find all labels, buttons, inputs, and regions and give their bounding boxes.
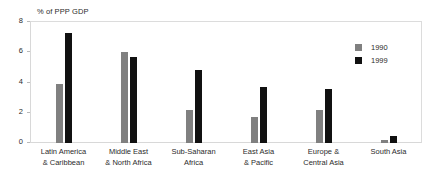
y-axis-tick-label: 2	[19, 107, 23, 116]
y-axis-tick-mark	[27, 51, 30, 52]
bar-group	[31, 22, 96, 143]
bar[interactable]	[390, 136, 397, 143]
y-axis-tick-mark	[27, 112, 30, 113]
y-axis-unit-label: % of PPP GDP	[37, 7, 89, 16]
x-axis-label: South Asia	[346, 147, 432, 158]
y-axis-tick-mark	[27, 21, 30, 22]
bar[interactable]	[195, 70, 202, 143]
legend-item-1990[interactable]: 1990	[355, 42, 388, 53]
bar[interactable]	[251, 117, 258, 143]
bars-layer	[31, 22, 421, 143]
legend-label-1999: 1999	[371, 56, 388, 65]
legend-swatch-icon-1999	[355, 57, 362, 64]
bar[interactable]	[130, 57, 137, 143]
bar[interactable]	[121, 52, 128, 143]
bar-group	[226, 22, 291, 143]
bar-group	[96, 22, 161, 143]
bar-group	[291, 22, 356, 143]
bar-group	[356, 22, 421, 143]
bar-chart: % of PPP GDP 02468 Latin America& Caribb…	[0, 0, 437, 188]
y-axis-tick-label: 8	[19, 16, 23, 25]
bar[interactable]	[65, 33, 72, 143]
legend-label-1990: 1990	[371, 43, 388, 52]
y-axis-tick-label: 0	[19, 137, 23, 146]
y-axis-tick-mark	[27, 142, 30, 143]
bar[interactable]	[56, 84, 63, 143]
bar-group	[161, 22, 226, 143]
bar[interactable]	[325, 89, 332, 143]
legend-swatch-icon-1990	[355, 44, 362, 51]
legend: 1990 1999	[355, 42, 388, 68]
x-axis-label-line: South Asia	[346, 147, 432, 158]
y-axis-tick-label: 6	[19, 46, 23, 55]
x-axis-label-line: Central Asia	[281, 158, 367, 169]
bar[interactable]	[260, 87, 267, 143]
y-axis-tick-label: 4	[19, 77, 23, 86]
bar[interactable]	[381, 140, 388, 143]
y-axis: 02468	[0, 21, 30, 143]
bar[interactable]	[186, 110, 193, 143]
bar[interactable]	[316, 110, 323, 143]
y-axis-tick-mark	[27, 82, 30, 83]
legend-item-1999[interactable]: 1999	[355, 55, 388, 66]
x-axis-category-labels: Latin America& CaribbeanMiddle East& Nor…	[31, 147, 421, 181]
